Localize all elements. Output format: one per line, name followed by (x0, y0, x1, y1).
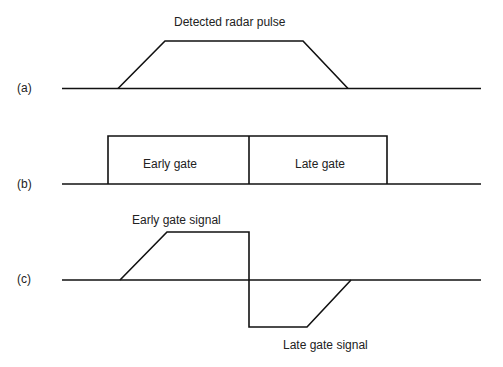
panel-b: (b) Early gate Late gate (17, 136, 481, 191)
late-gate-signal-label: Late gate signal (283, 338, 368, 352)
late-gate-label: Late gate (295, 157, 345, 171)
panel-c: Early gate signal (c) Late gate signal (17, 213, 481, 352)
panel-c-label: (c) (17, 272, 31, 286)
range-gate-diagram: Detected radar pulse (a) (b) Early gate … (0, 0, 503, 367)
detected-pulse-waveform (118, 41, 348, 89)
panel-b-label: (b) (17, 177, 32, 191)
early-gate-label: Early gate (143, 157, 197, 171)
panel-a: Detected radar pulse (a) (17, 15, 481, 95)
detected-pulse-caption: Detected radar pulse (174, 15, 286, 29)
early-gate-signal-label: Early gate signal (132, 213, 221, 227)
panel-a-label: (a) (17, 81, 32, 95)
